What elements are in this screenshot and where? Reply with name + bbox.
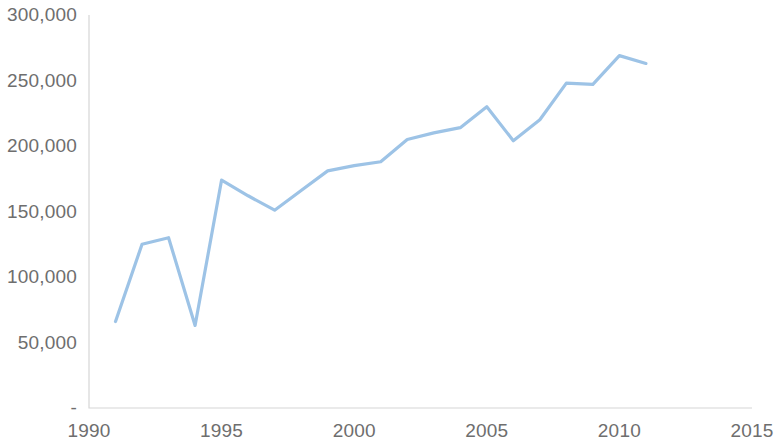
x-axis-tick-label: 1995 [200, 420, 243, 442]
x-axis-tick-label: 2000 [333, 420, 376, 442]
y-axis-tick-label: - [0, 396, 77, 420]
y-axis-tick-label: 250,000 [0, 69, 77, 93]
y-axis-tick-label: 150,000 [0, 200, 77, 224]
data-series-line [116, 56, 646, 326]
y-axis-tick-label: 300,000 [0, 3, 77, 27]
x-axis-tick-label: 1990 [67, 420, 110, 442]
x-axis-tick-label: 2015 [730, 420, 773, 442]
y-axis-tick-label: 100,000 [0, 265, 77, 289]
y-axis-tick-label: 200,000 [0, 134, 77, 158]
x-axis-tick-label: 2005 [465, 420, 508, 442]
chart-axes [89, 15, 752, 408]
x-axis-tick-label: 2010 [598, 420, 641, 442]
y-axis-tick-label: 50,000 [0, 331, 77, 355]
